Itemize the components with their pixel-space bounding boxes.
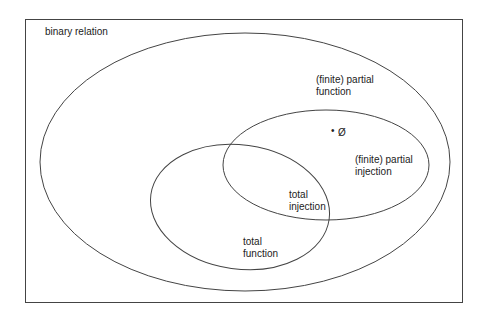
total-function-label-line1: total [243,236,262,247]
total-injection-label-line1: total [289,189,308,200]
venn-diagram: binary relation (finite) partial functio… [0,0,488,321]
partial-injection-label-line2: injection [355,166,392,177]
empty-set-bullet: • [331,125,335,136]
total-function-label-line2: function [243,248,278,259]
partial-function-label-line1: (finite) partial [316,74,374,85]
partial-injection-ellipse [223,110,429,220]
total-injection-label-line2: injection [289,201,326,212]
partial-injection-label-line1: (finite) partial [355,154,413,165]
partial-function-label-line2: function [316,86,351,97]
empty-set-symbol: Ø [338,127,346,138]
binary-relation-label: binary relation [45,26,108,37]
